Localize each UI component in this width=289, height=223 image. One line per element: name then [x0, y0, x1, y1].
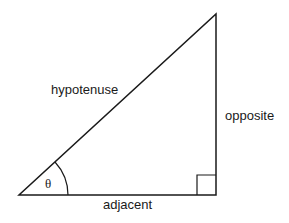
triangle — [19, 14, 216, 195]
angle-arc — [55, 162, 68, 195]
opposite-label: opposite — [225, 108, 274, 123]
theta-label: θ — [45, 176, 51, 192]
right-angle-marker — [197, 175, 216, 195]
hypotenuse-label: hypotenuse — [51, 82, 118, 97]
adjacent-label: adjacent — [103, 197, 152, 212]
